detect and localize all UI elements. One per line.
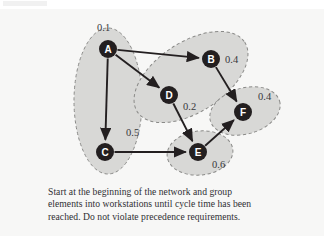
task-node-f[interactable]: F	[234, 103, 252, 121]
scan-artifact-mark	[3, 1, 47, 6]
task-time-a: 0.1	[97, 22, 110, 33]
task-node-label-b: B	[207, 54, 214, 65]
task-time-e: 0.6	[212, 159, 225, 170]
caption-line-1: Start at the beginning of the network an…	[48, 186, 288, 198]
precedence-network-diagram: ABCDEF 0.10.40.50.20.60.4	[13, 11, 311, 181]
task-time-c: 0.5	[126, 127, 139, 138]
task-node-label-a: A	[104, 44, 111, 55]
figure-panel: ABCDEF 0.10.40.50.20.60.4 Start at the b…	[0, 0, 324, 236]
task-node-d[interactable]: D	[160, 86, 178, 104]
task-time-b: 0.4	[225, 54, 239, 65]
scan-artifact-top-strip	[0, 0, 324, 9]
task-node-c[interactable]: C	[96, 143, 114, 161]
task-time-d: 0.2	[183, 101, 196, 112]
task-node-label-f: F	[240, 107, 246, 118]
figure-caption: Start at the beginning of the network an…	[48, 186, 288, 223]
task-node-a[interactable]: A	[99, 40, 117, 58]
task-node-label-c: C	[101, 147, 108, 158]
caption-line-2: elements into workstations until cycle t…	[48, 198, 288, 210]
network-svg: ABCDEF 0.10.40.50.20.60.4	[13, 11, 311, 181]
caption-line-3: reached. Do not violate precedence requi…	[48, 211, 288, 223]
task-node-label-d: D	[165, 90, 172, 101]
task-node-b[interactable]: B	[202, 50, 220, 68]
task-node-label-e: E	[195, 147, 202, 158]
task-time-f: 0.4	[258, 91, 272, 102]
task-node-e[interactable]: E	[189, 143, 207, 161]
